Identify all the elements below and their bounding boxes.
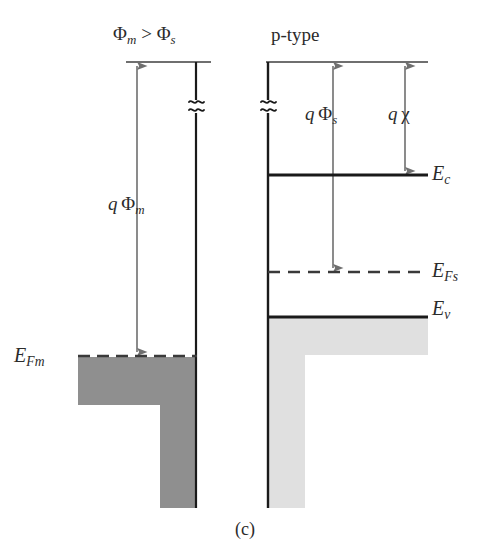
q-phi-s-label: q Φs	[305, 104, 337, 127]
q-phi-m-label: q Φm	[108, 194, 145, 217]
e-v-label: Ev	[432, 298, 450, 321]
e-fm-label: EFm	[14, 345, 45, 368]
band-diagram-canvas	[0, 0, 490, 559]
p-type-label: p-type	[271, 25, 320, 44]
band-diagram-figure: Φm > Φs p-type q Φm q Φs q χ Ec EFs Ev E…	[0, 0, 490, 559]
metal-region-fill	[78, 357, 197, 508]
semiconductor-region-fill	[268, 318, 428, 508]
break-symbol-semiconductor	[261, 101, 276, 111]
phi-comparison-label: Φm > Φs	[113, 24, 176, 47]
break-symbol-metal	[189, 101, 204, 111]
figure-caption: (c)	[0, 520, 490, 538]
q-chi-label: q χ	[388, 104, 410, 123]
e-c-label: Ec	[432, 163, 450, 186]
e-fs-label: EFs	[432, 260, 458, 283]
